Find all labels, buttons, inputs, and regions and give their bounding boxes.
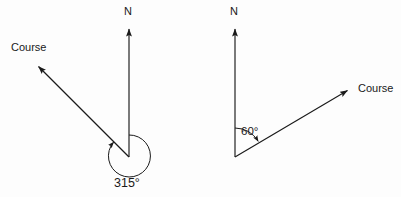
left-bearing-diagram [39, 29, 151, 177]
right-course-label: Course [358, 83, 393, 94]
left-course-label: Course [11, 42, 46, 53]
left-north-label: N [124, 6, 132, 17]
left-angle-label: 315° [114, 177, 140, 190]
right-bearing-diagram [235, 29, 348, 157]
left-course-line [39, 67, 130, 158]
right-angle-label: 60° [241, 126, 258, 138]
diagram-canvas [0, 0, 401, 197]
right-course-line [235, 91, 348, 158]
right-north-label: N [230, 6, 238, 17]
bearing-diagram-figure: N Course 315° N Course 60° [0, 0, 401, 197]
